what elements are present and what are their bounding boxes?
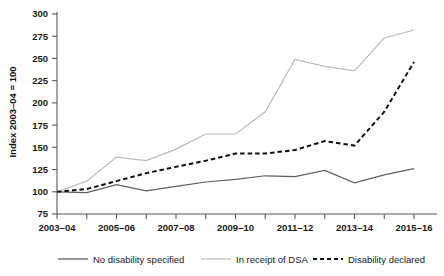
legend-label-1: In receipt of DSA bbox=[236, 254, 308, 265]
y-tick-label: 275 bbox=[32, 31, 49, 42]
x-tick-label: 2013–14 bbox=[336, 222, 374, 233]
x-tick-label: 2009–10 bbox=[217, 222, 254, 233]
x-axis-ticks: 2003–042005–062007–082009–102011–122013–… bbox=[39, 214, 433, 233]
y-axis-ticks: 75100125150175200225250275300 bbox=[32, 8, 57, 219]
legend-label-2: Disability declared bbox=[348, 254, 425, 265]
y-tick-label: 100 bbox=[32, 186, 48, 197]
x-tick-label: 2015–16 bbox=[396, 222, 433, 233]
y-tick-label: 225 bbox=[32, 75, 49, 86]
series-line-2 bbox=[57, 62, 414, 192]
y-axis-title: Index 2003–04 = 100 bbox=[7, 66, 18, 157]
y-tick-label: 300 bbox=[32, 8, 48, 19]
chart-legend: No disability specifiedIn receipt of DSA… bbox=[58, 254, 425, 265]
x-tick-label: 2005–06 bbox=[98, 222, 135, 233]
y-tick-label: 150 bbox=[32, 142, 48, 153]
x-tick-label: 2003–04 bbox=[39, 222, 77, 233]
series-line-0 bbox=[57, 169, 414, 193]
y-tick-label: 75 bbox=[37, 208, 48, 219]
series-line-1 bbox=[57, 30, 414, 192]
x-tick-label: 2007–08 bbox=[158, 222, 195, 233]
y-tick-label: 175 bbox=[32, 120, 49, 131]
y-tick-label: 125 bbox=[32, 164, 49, 175]
chart-svg: Index 2003–04 = 100 75100125150175200225… bbox=[0, 0, 444, 276]
legend-label-0: No disability specified bbox=[93, 254, 184, 265]
series-group bbox=[57, 30, 414, 193]
y-tick-label: 250 bbox=[32, 53, 48, 64]
y-tick-label: 200 bbox=[32, 97, 48, 108]
line-chart: Index 2003–04 = 100 75100125150175200225… bbox=[0, 0, 444, 276]
x-tick-label: 2011–12 bbox=[277, 222, 313, 233]
